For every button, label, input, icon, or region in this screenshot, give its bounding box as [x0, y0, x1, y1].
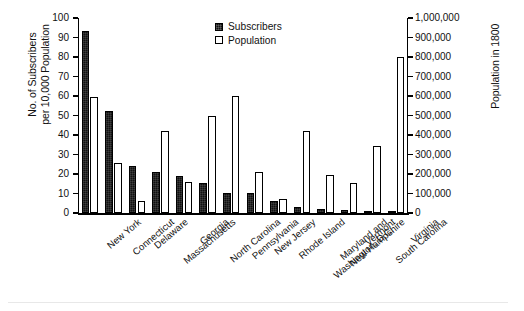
y-axis-left-tick-label: 40	[58, 130, 69, 140]
bar-population	[255, 172, 263, 213]
bar-population	[350, 183, 358, 213]
y-axis-right-tick-label: 200,000	[415, 169, 451, 179]
legend-swatch-outline-icon	[215, 36, 223, 44]
y-axis-right-tick	[408, 115, 413, 116]
y-axis-right-tick-label: 500,000	[415, 111, 451, 121]
bar-pair	[223, 18, 239, 213]
bar-subscribers	[317, 209, 325, 213]
bar-pair	[152, 18, 168, 213]
y-axis-right-tick-label: 300,000	[415, 150, 451, 160]
bar-subscribers	[199, 183, 207, 213]
bar-pair	[270, 18, 286, 213]
bar-subscribers	[364, 211, 372, 213]
y-axis-right-tick	[408, 154, 413, 155]
y-axis-right-tick	[408, 193, 413, 194]
y-axis-right-tick	[408, 134, 413, 135]
bar-pair	[199, 18, 215, 213]
plot-area	[78, 18, 408, 213]
legend-item: Population	[215, 34, 282, 48]
bar-population	[279, 199, 287, 213]
y-axis-left-tick	[73, 37, 78, 38]
bar-population	[114, 163, 122, 213]
y-axis-right-tick	[408, 37, 413, 38]
legend-item: Subscribers	[215, 20, 282, 34]
y-axis-right-tick-label: 600,000	[415, 91, 451, 101]
bar-pair	[388, 18, 404, 213]
y-axis-right-tick-label: 700,000	[415, 72, 451, 82]
bar-pair	[82, 18, 98, 213]
bar-population	[185, 182, 193, 213]
y-axis-right-title: Population in 1800	[489, 1, 502, 131]
y-axis-right-tick	[408, 56, 413, 57]
y-axis-right-tick-label: 800,000	[415, 52, 451, 62]
y-axis-left-tick	[73, 173, 78, 174]
legend-swatch-filled-icon	[215, 23, 223, 31]
bar-pair	[341, 18, 357, 213]
bar-subscribers	[270, 201, 278, 213]
y-axis-left-title: No. of Subscribers per 10,000 Population	[26, 15, 51, 135]
y-axis-left-tick	[73, 154, 78, 155]
bar-subscribers	[388, 211, 396, 213]
bar-population	[373, 146, 381, 213]
bar-subscribers	[247, 193, 255, 213]
bar-population	[138, 201, 146, 213]
y-axis-left-tick-label: 70	[58, 72, 69, 82]
y-axis-left-tick	[73, 95, 78, 96]
y-axis-left-tick	[73, 56, 78, 57]
bar-pair	[294, 18, 310, 213]
bar-population	[303, 131, 311, 213]
y-axis-left-tick-label: 100	[52, 13, 69, 23]
bar-population	[326, 175, 334, 213]
y-axis-right-tick	[408, 95, 413, 96]
y-axis-left-tick	[73, 212, 78, 213]
bar-pair	[129, 18, 145, 213]
y-axis-right-tick	[408, 212, 413, 213]
y-axis-left-tick-label: 80	[58, 52, 69, 62]
y-axis-right-tick	[408, 76, 413, 77]
y-axis-left-tick	[73, 134, 78, 135]
y-axis-right-tick-label: 400,000	[415, 130, 451, 140]
bar-subscribers	[129, 166, 137, 213]
y-axis-left-tick	[73, 76, 78, 77]
bar-pair	[364, 18, 380, 213]
y-axis-left-tick-label: 0	[63, 208, 69, 218]
y-axis-left-tick-label: 20	[58, 169, 69, 179]
bar-pair	[247, 18, 263, 213]
bar-subscribers	[341, 210, 349, 213]
bar-pair	[317, 18, 333, 213]
y-axis-right-tick	[408, 17, 413, 18]
chart-figure: No. of Subscribers per 10,000 Population…	[0, 0, 524, 311]
y-axis-left-tick	[73, 193, 78, 194]
bar-population	[208, 116, 216, 213]
y-axis-left-tick	[73, 115, 78, 116]
x-axis-line	[78, 213, 409, 215]
y-axis-right-tick-label: 100,000	[415, 189, 451, 199]
bar-subscribers	[294, 207, 302, 213]
figure-bottom-rule	[8, 302, 508, 303]
bar-population	[90, 97, 98, 213]
y-axis-left-tick-label: 60	[58, 91, 69, 101]
bar-subscribers	[82, 31, 90, 213]
bar-subscribers	[176, 176, 184, 213]
y-axis-left-tick-label: 30	[58, 150, 69, 160]
y-axis-left-tick-label: 90	[58, 33, 69, 43]
bar-pair	[105, 18, 121, 213]
bar-subscribers	[152, 172, 160, 213]
bar-subscribers	[223, 193, 231, 213]
y-axis-left-tick-label: 50	[58, 111, 69, 121]
y-axis-left-tick	[73, 17, 78, 18]
bar-population	[161, 131, 169, 213]
bar-subscribers	[105, 111, 113, 213]
legend-item-label: Subscribers	[228, 20, 282, 34]
y-axis-right-tick-label: 900,000	[415, 33, 451, 43]
y-axis-right-tick-label: 1,000,000	[415, 13, 460, 23]
bar-population	[397, 57, 405, 213]
chart-legend: SubscribersPopulation	[215, 20, 282, 47]
bar-pair	[176, 18, 192, 213]
bar-population	[232, 96, 240, 213]
legend-item-label: Population	[228, 34, 276, 48]
y-axis-right-tick	[408, 173, 413, 174]
y-axis-left-tick-label: 10	[58, 189, 69, 199]
y-axis-right-tick-label: 0	[415, 208, 421, 218]
